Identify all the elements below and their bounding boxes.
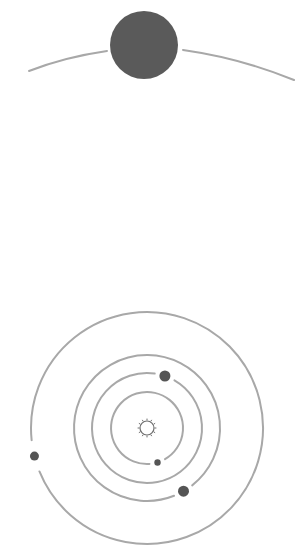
sun-ray — [139, 432, 141, 433]
planet-3-icon — [178, 486, 189, 497]
solar-system-diagram — [30, 312, 263, 544]
illustration-canvas — [0, 0, 308, 546]
sun-ray — [151, 420, 152, 422]
sun-body — [140, 421, 154, 435]
planet-4-icon — [30, 452, 39, 461]
horizon-arc-right — [183, 50, 294, 80]
planet-1-icon — [154, 459, 160, 465]
large-planet-icon — [110, 11, 178, 79]
sun-ray — [151, 435, 152, 437]
sun-ray — [154, 432, 156, 433]
sun-ray — [139, 423, 141, 424]
sun-ray — [142, 435, 143, 437]
sun-ray — [154, 423, 156, 424]
planet-horizon-illustration — [29, 11, 294, 80]
planet-2-icon — [159, 371, 170, 382]
sun-icon — [138, 419, 157, 438]
sun-ray — [142, 420, 143, 422]
horizon-arc-left — [29, 51, 107, 71]
